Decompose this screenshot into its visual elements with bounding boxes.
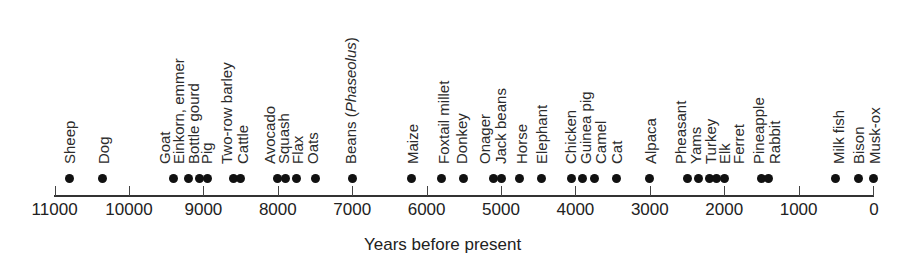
x-tick: [129, 186, 130, 196]
species-label: Cat: [609, 141, 624, 164]
species-label: Two-row barley: [219, 62, 234, 164]
x-tick-label: 10000: [105, 200, 152, 220]
data-point: [98, 174, 107, 183]
data-point: [348, 174, 357, 183]
data-point: [590, 174, 599, 183]
species-label: Jack beans: [493, 88, 508, 164]
species-label: Guinea pig: [578, 91, 593, 164]
x-tick-label: 4000: [556, 200, 594, 220]
species-label: Einkorn, emmer: [171, 58, 186, 164]
species-label: Camel: [593, 121, 608, 164]
species-label: Flax: [290, 136, 305, 164]
data-point: [694, 174, 703, 183]
species-label: Donkey: [454, 113, 469, 164]
species-label: Horse: [514, 124, 529, 164]
data-point: [515, 174, 524, 183]
species-label: Beans (Phaseolus): [343, 37, 358, 164]
x-tick-label: 8000: [259, 200, 297, 220]
species-label: Dog: [96, 136, 111, 164]
x-tick: [650, 186, 651, 196]
species-label: Maize: [405, 124, 420, 164]
data-point: [645, 174, 654, 183]
species-label: Oats: [305, 132, 320, 164]
data-point: [169, 174, 178, 183]
x-tick: [575, 186, 576, 196]
data-point: [578, 174, 587, 183]
x-tick: [799, 186, 800, 196]
species-label: Alpaca: [643, 118, 658, 164]
data-point: [437, 174, 446, 183]
x-tick: [352, 186, 353, 196]
data-point: [65, 174, 74, 183]
species-label: Pineapple: [751, 97, 766, 164]
x-tick-label: 11000: [32, 200, 78, 220]
x-tick-label: 0: [869, 200, 878, 220]
data-point: [720, 174, 729, 183]
data-point: [497, 174, 506, 183]
data-point: [537, 174, 546, 183]
x-tick-label: 5000: [482, 200, 520, 220]
species-label: Chicken: [563, 110, 578, 164]
data-point: [311, 174, 320, 183]
x-tick-label: 2000: [705, 200, 743, 220]
x-tick-label: 6000: [408, 200, 446, 220]
species-label: Rabbit: [767, 121, 782, 164]
data-point: [281, 174, 290, 183]
data-point: [407, 174, 416, 183]
x-tick: [427, 186, 428, 196]
x-tick: [873, 186, 874, 196]
species-label: Cattle: [235, 125, 250, 164]
data-point: [459, 174, 468, 183]
x-tick: [278, 186, 279, 196]
data-point: [764, 174, 773, 183]
x-tick-label: 7000: [333, 200, 371, 220]
data-point: [683, 174, 692, 183]
species-label: Ferret: [731, 124, 746, 164]
species-label: Elephant: [534, 105, 549, 164]
species-label: Pheasant: [673, 101, 688, 164]
x-tick-label: 1000: [780, 200, 818, 220]
species-label: Milk fish: [831, 110, 846, 164]
x-tick: [501, 186, 502, 196]
x-tick-label: 9000: [184, 200, 222, 220]
data-point: [567, 174, 576, 183]
species-label: Bison: [851, 126, 866, 164]
species-label: Pig: [199, 142, 214, 164]
species-label: Yams: [688, 127, 703, 164]
data-point: [854, 174, 863, 183]
x-tick: [203, 186, 204, 196]
x-tick-label: 3000: [631, 200, 669, 220]
x-axis-title: Years before present: [364, 235, 521, 255]
data-point: [831, 174, 840, 183]
species-label: Foxtail millet: [436, 81, 451, 164]
data-point: [236, 174, 245, 183]
domestication-timeline-chart: SheepDogGoatEinkorn, emmerBottle gourdPi…: [0, 0, 901, 275]
data-point: [203, 174, 212, 183]
data-point: [612, 174, 621, 183]
x-tick: [724, 186, 725, 196]
data-point: [292, 174, 301, 183]
x-tick: [55, 186, 56, 196]
x-axis-line: [54, 195, 874, 197]
data-point: [869, 174, 878, 183]
species-label: Musk-ox: [867, 107, 882, 164]
species-label: Onager: [477, 114, 492, 164]
species-label: Sheep: [62, 121, 77, 164]
data-point: [184, 174, 193, 183]
